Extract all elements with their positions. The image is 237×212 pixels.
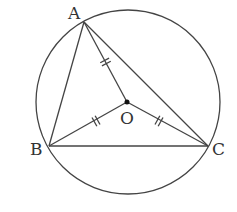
segment-oa [84,22,127,102]
label-b: B [30,139,43,159]
segment-ca [84,22,208,146]
label-o: O [120,108,134,128]
label-c: C [212,139,225,159]
segment-oc [127,102,208,146]
segment-ab [49,22,84,146]
center-point-o [125,100,130,105]
segment-ob [49,102,127,146]
label-a: A [67,3,81,23]
geometry-diagram: A B C O [0,0,237,212]
